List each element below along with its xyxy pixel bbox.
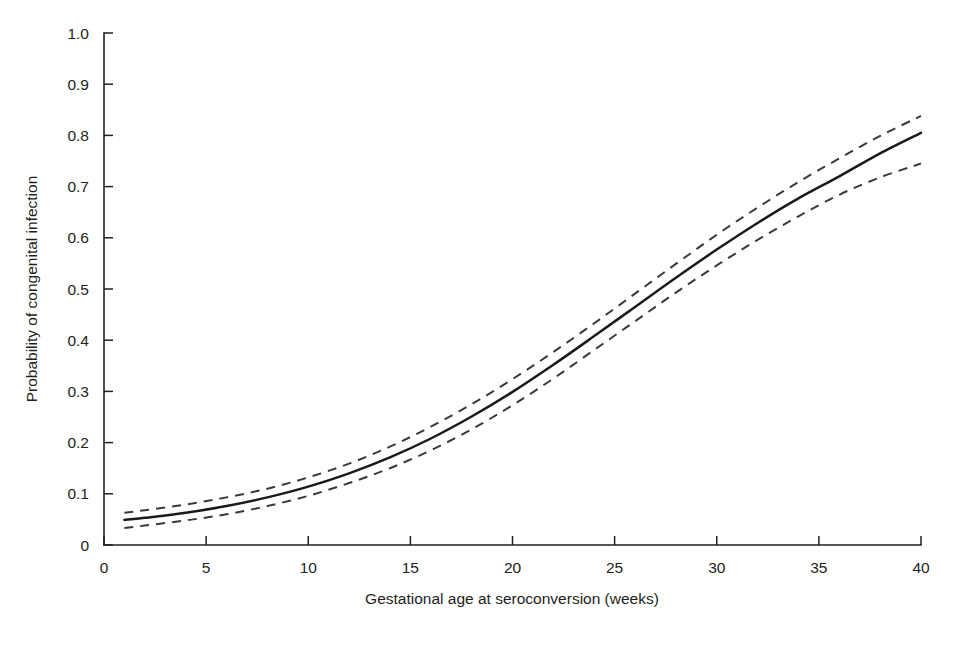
y-tick-label: 0.1 xyxy=(67,485,89,502)
x-tick-label: 35 xyxy=(810,559,827,576)
y-tick-label: 0.9 xyxy=(67,76,89,93)
confidence-band-line xyxy=(124,164,921,529)
estimate-line xyxy=(124,133,921,520)
x-axis-title: Gestational age at seroconversion (weeks… xyxy=(365,590,659,607)
y-tick-label: 1.0 xyxy=(67,25,89,42)
x-tick-label: 25 xyxy=(606,559,623,576)
confidence-band-line xyxy=(124,116,921,513)
x-tick-label: 30 xyxy=(708,559,726,576)
x-tick-label: 5 xyxy=(202,559,211,576)
x-axis-ticks: 0510152025303540 xyxy=(100,536,930,576)
y-tick-label: 0.2 xyxy=(67,434,89,451)
y-tick-label: 0.8 xyxy=(67,127,89,144)
y-tick-label: 0.5 xyxy=(67,281,89,298)
x-tick-label: 20 xyxy=(504,559,522,576)
y-axis-title: Probability of congenital infection xyxy=(23,176,40,403)
x-tick-label: 40 xyxy=(912,559,930,576)
figure-panel: 0510152025303540 00.10.20.30.40.50.60.70… xyxy=(0,0,958,658)
x-tick-label: 10 xyxy=(300,559,318,576)
y-tick-label: 0.6 xyxy=(67,229,89,246)
x-tick-label: 15 xyxy=(402,559,419,576)
x-tick-label: 0 xyxy=(100,559,109,576)
y-tick-label: 0.3 xyxy=(67,383,89,400)
y-tick-label: 0.4 xyxy=(67,332,89,349)
y-tick-label: 0.7 xyxy=(67,178,89,195)
line-chart: 0510152025303540 00.10.20.30.40.50.60.70… xyxy=(0,0,958,658)
y-axis-ticks: 00.10.20.30.40.50.60.70.80.91.0 xyxy=(67,25,113,554)
series-group xyxy=(124,116,921,528)
y-tick-label: 0 xyxy=(80,537,89,554)
